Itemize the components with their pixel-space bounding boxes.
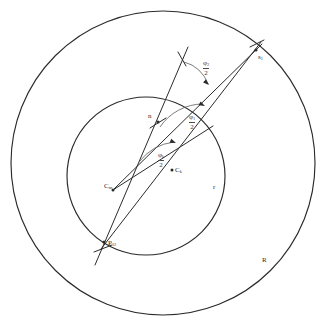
s1-point-label: s1 bbox=[258, 54, 263, 62]
angle-upper-label: φ22 bbox=[203, 60, 209, 77]
s1-point-dot bbox=[255, 49, 258, 52]
ck-point-dot bbox=[171, 169, 174, 172]
inner-intersection-dot bbox=[157, 121, 160, 124]
inner-circle-label: r bbox=[213, 184, 215, 191]
ck-point-label: Ck bbox=[175, 167, 182, 175]
p12-point-label: P12 bbox=[108, 240, 116, 248]
figure-canvas: RrCmCkP12s1nφ22φ12φk2 bbox=[0, 0, 327, 324]
rays-group bbox=[95, 42, 262, 265]
ray-p12-upward bbox=[95, 47, 188, 265]
outer-circle-label: R bbox=[262, 257, 267, 264]
center-point-label: Cm bbox=[104, 183, 112, 191]
angle-middle-label: φ12 bbox=[189, 114, 195, 131]
ray-cm-to-s1 bbox=[113, 44, 262, 190]
tick-s1-cross bbox=[250, 40, 264, 47]
arrowhead-lower bbox=[170, 139, 177, 145]
ray-p12-to-s1 bbox=[101, 42, 261, 249]
p12-point-dot bbox=[103, 241, 106, 244]
angle-lower-label: φk2 bbox=[158, 152, 164, 169]
inner-circle bbox=[67, 97, 225, 255]
inner-intersection-label: n bbox=[148, 113, 152, 120]
